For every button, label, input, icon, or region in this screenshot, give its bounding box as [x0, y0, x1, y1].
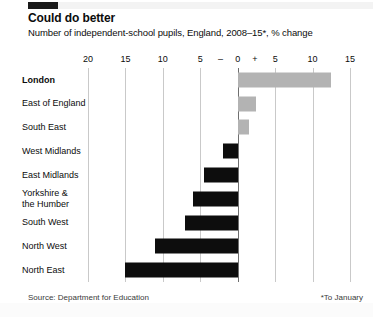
bar--e-a-s-t--o-f--e-n-g-l-a-n-d-: [238, 96, 257, 111]
bar--s-o-u-t-h--w-e-s-t-: [185, 215, 237, 230]
y-axis-category-labels: LondonEast of EnglandSouth EastWest Midl…: [22, 68, 86, 282]
bar--n-o-r-t-h--e-a-s-t-: [125, 263, 237, 278]
bar-row: [88, 234, 350, 258]
x-sign-marker-plus: +: [252, 54, 257, 65]
category-label: London: [22, 68, 86, 92]
x-tick-5-3: 5: [198, 54, 203, 65]
x-tick-20-0: 20: [83, 54, 93, 65]
footnote: *To January: [321, 293, 363, 302]
x-tick-0-4: 0: [235, 54, 240, 65]
x-tick-10-6: 10: [308, 54, 318, 65]
x-sign-marker-minus: –: [218, 54, 223, 65]
category-label: East of England: [22, 92, 86, 116]
bar-row: [88, 139, 350, 163]
x-tick-15-7: 15: [345, 54, 355, 65]
chart-figure: Could do better Number of independent-sc…: [0, 0, 373, 317]
header-band: [58, 2, 373, 9]
chart-subtitle: Number of independent-school pupils, Eng…: [28, 27, 313, 39]
bar-row: [88, 211, 350, 235]
bar--w-e-s-t--m-i-d-l-a-n-d-s-: [223, 144, 238, 159]
x-axis-tick-labels: 2015105051015–+: [88, 54, 350, 67]
category-label: North West: [22, 234, 86, 258]
bar--y-o-r-k-s-h-i-r-e--t-h-e--h-u-m-b-e-r-: [193, 191, 238, 206]
bar-row: [88, 163, 350, 187]
category-label: North East: [22, 258, 86, 282]
bar--e-a-s-t--m-i-d-l-a-n-d-s-: [204, 167, 238, 182]
gridline-15: [350, 68, 351, 282]
x-tick-10-2: 10: [158, 54, 168, 65]
bar--s-o-u-t-h--e-a-s-t-: [238, 120, 249, 135]
plot-area: [88, 68, 350, 282]
category-label: South West: [22, 211, 86, 235]
brand-marker: [28, 2, 58, 9]
category-label: South East: [22, 116, 86, 140]
bottom-band: [0, 303, 373, 317]
bar-row: [88, 258, 350, 282]
bar-row: [88, 92, 350, 116]
source-note: Source: Department for Education: [28, 293, 149, 302]
bar-row: [88, 187, 350, 211]
category-label: West Midlands: [22, 139, 86, 163]
bar-row: [88, 116, 350, 140]
bar--n-o-r-t-h--w-e-s-t-: [155, 239, 237, 254]
bar--l-o-n-d-o-n-: [238, 72, 332, 87]
category-label: Yorkshire & the Humber: [22, 187, 86, 211]
category-label: East Midlands: [22, 163, 86, 187]
x-tick-5-5: 5: [273, 54, 278, 65]
bar-rows: [88, 68, 350, 282]
chart-title: Could do better: [28, 11, 115, 25]
bar-row: [88, 68, 350, 92]
x-tick-15-1: 15: [120, 54, 130, 65]
